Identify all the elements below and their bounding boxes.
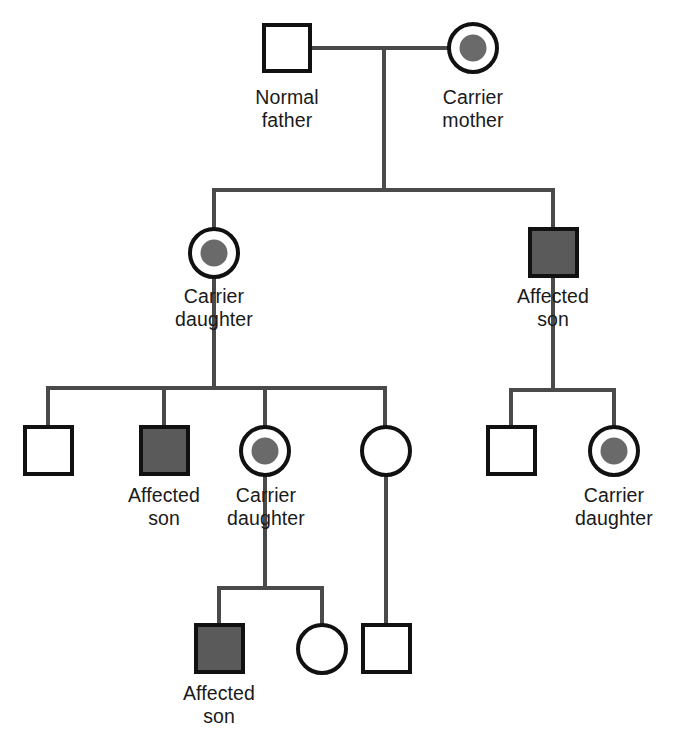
male-square-unaffected[interactable] <box>488 427 535 474</box>
label-carrier-mother: Carrier mother <box>442 86 503 132</box>
label-carrier-daughter-g3: Carrier daughter <box>227 484 305 530</box>
label-carrier-daughter-g3-right: Carrier daughter <box>575 484 653 530</box>
label-affected-son-g4: Affected son <box>183 682 255 728</box>
label-line-1: Affected <box>517 285 589 308</box>
female-circle-unaffected[interactable] <box>362 427 410 475</box>
affected-son-g3-symbol[interactable] <box>141 427 188 474</box>
normal-father-symbol[interactable] <box>264 25 310 71</box>
label-line-1: Carrier <box>175 285 253 308</box>
unaffected-son-g4-symbol[interactable] <box>363 625 410 672</box>
label-line-2: mother <box>442 109 503 132</box>
male-square-unaffected[interactable] <box>264 25 310 71</box>
label-line-1: Affected <box>128 484 200 507</box>
male-square-unaffected[interactable] <box>363 625 410 672</box>
carrier-dot-icon <box>460 35 487 62</box>
unaffected-son-g3-b-symbol[interactable] <box>488 427 535 474</box>
label-line-1: Carrier <box>227 484 305 507</box>
label-line-2: son <box>517 308 589 331</box>
label-line-1: Carrier <box>575 484 653 507</box>
label-line-1: Carrier <box>442 86 503 109</box>
label-line-2: daughter <box>227 507 305 530</box>
label-line-2: son <box>128 507 200 530</box>
label-line-2: son <box>183 705 255 728</box>
unaffected-son-g3-a-symbol[interactable] <box>25 427 72 474</box>
affected-son-g4-symbol[interactable] <box>196 625 243 672</box>
male-square-affected[interactable] <box>141 427 188 474</box>
label-affected-son-g3: Affected son <box>128 484 200 530</box>
label-carrier-daughter-g2: Carrier daughter <box>175 285 253 331</box>
carrier-dot-icon <box>201 240 228 267</box>
male-square-affected[interactable] <box>530 229 577 276</box>
label-line-1: Normal <box>255 86 318 109</box>
label-affected-son-g2: Affected son <box>517 285 589 331</box>
label-line-2: father <box>255 109 318 132</box>
carrier-daughter-g3-right-symbol[interactable] <box>590 427 638 475</box>
carrier-daughter-g2-symbol[interactable] <box>190 229 238 277</box>
label-line-2: daughter <box>575 507 653 530</box>
carrier-dot-icon <box>252 438 279 465</box>
unaffected-daughter-g4-symbol[interactable] <box>298 625 346 673</box>
pedigree-canvas <box>0 0 679 750</box>
label-normal-father: Normal father <box>255 86 318 132</box>
carrier-mother-symbol[interactable] <box>449 24 497 72</box>
label-line-2: daughter <box>175 308 253 331</box>
generation-1-connectors <box>212 48 555 229</box>
carrier-daughter-g3-symbol[interactable] <box>241 427 289 475</box>
female-circle-unaffected[interactable] <box>298 625 346 673</box>
male-square-affected[interactable] <box>196 625 243 672</box>
male-square-unaffected[interactable] <box>25 427 72 474</box>
pedigree-diagram: Normal father Carrier mother Carrier dau… <box>0 0 679 750</box>
unaffected-daughter-g3-symbol[interactable] <box>362 427 410 475</box>
affected-son-g2-symbol[interactable] <box>530 229 577 276</box>
carrier-dot-icon <box>601 438 628 465</box>
label-line-1: Affected <box>183 682 255 705</box>
